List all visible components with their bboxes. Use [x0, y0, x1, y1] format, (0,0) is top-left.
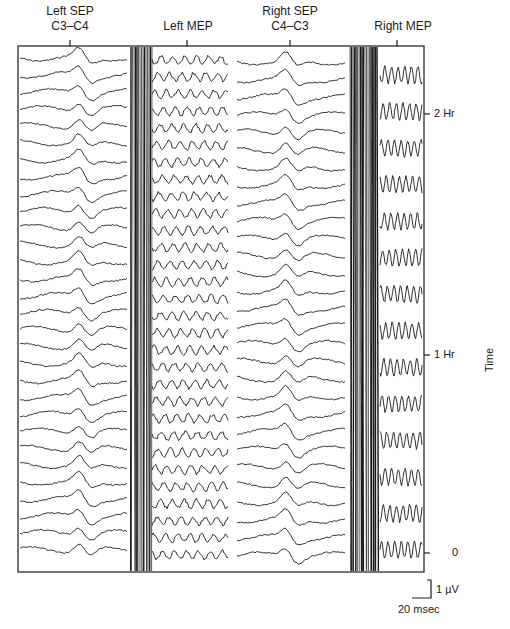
trace-left_mep	[152, 431, 228, 441]
trace-left_mep	[152, 277, 228, 288]
tick-label-1hr: 1 Hr	[434, 348, 455, 360]
trace-left_mep	[152, 294, 228, 304]
trace-left_sep	[20, 66, 127, 84]
trace-left_sep	[20, 388, 127, 405]
trace-left_sep	[20, 85, 127, 101]
trace-right_sep	[237, 158, 345, 171]
trace-right_sep	[237, 462, 345, 473]
artifact-line	[139, 47, 140, 571]
trace-left_mep	[152, 55, 228, 64]
trace-right_sep	[237, 250, 345, 261]
trace-left_mep	[152, 465, 228, 476]
trace-left_mep	[152, 243, 228, 253]
trace-left_mep	[152, 447, 228, 457]
trace-left_mep	[152, 72, 228, 82]
trace-right_sep	[237, 280, 345, 295]
trace-left_sep	[20, 490, 127, 507]
trace-right_mep	[380, 285, 422, 303]
trace-right_sep	[237, 339, 345, 352]
time-axis-label: Time	[483, 348, 495, 372]
artifact-line	[136, 47, 137, 571]
scale-time-label: 20 msec	[398, 603, 440, 615]
trace-right_sep	[237, 528, 345, 544]
trace-right_sep	[237, 492, 345, 506]
trace-left_sep	[20, 442, 127, 452]
trace-right_mep	[380, 102, 422, 121]
trace-right_sep	[237, 69, 345, 85]
trace-left_mep	[152, 158, 228, 168]
trace-left_mep	[152, 328, 228, 338]
trace-right_mep	[380, 213, 422, 231]
trace-right_mep	[380, 468, 422, 486]
trace-left_sep	[20, 324, 127, 336]
trace-right_sep	[237, 318, 345, 335]
trace-right_mep	[380, 66, 422, 85]
trace-right_mep	[380, 431, 422, 449]
trace-right_mep	[380, 248, 422, 266]
trace-left_mep	[152, 533, 228, 543]
trace-right_sep	[237, 233, 345, 246]
scale-bar	[412, 580, 431, 598]
trace-left_sep	[20, 222, 127, 233]
artifact-line	[365, 47, 366, 571]
trace-left_sep	[20, 47, 127, 63]
trace-right_sep	[237, 143, 345, 155]
trace-right_sep	[237, 214, 345, 230]
trace-left_mep	[152, 363, 228, 373]
trace-left_sep	[20, 528, 127, 540]
traces-group	[20, 47, 422, 571]
artifact-line	[377, 47, 378, 571]
trace-right_sep	[237, 404, 345, 420]
trace-right_sep	[237, 175, 345, 190]
trace-left_mep	[152, 345, 228, 356]
trace-left_sep	[20, 288, 127, 304]
trace-left_sep	[20, 471, 127, 487]
trace-left_sep	[20, 168, 127, 184]
trace-left_mep	[152, 123, 228, 133]
scale-amplitude-label: 1 µV	[436, 583, 459, 595]
trace-left_sep	[20, 251, 127, 266]
trace-right_mep	[380, 176, 422, 194]
trace-left_sep	[20, 509, 127, 525]
trace-right_sep	[237, 52, 345, 65]
trace-right_sep	[237, 356, 345, 367]
trace-left_sep	[20, 456, 127, 469]
trace-left_mep	[152, 192, 228, 203]
trace-left_mep	[152, 107, 228, 117]
trace-right_sep	[237, 264, 345, 277]
trace-left_mep	[152, 481, 228, 491]
trace-left_mep	[152, 208, 228, 218]
trace-left_mep	[152, 260, 228, 270]
trace-right_sep	[237, 109, 345, 123]
trace-right_sep	[237, 89, 345, 105]
tick-label-0: 0	[452, 546, 458, 558]
trace-left_sep	[20, 269, 127, 286]
trace-right_sep	[237, 509, 345, 525]
trace-left_sep	[20, 409, 127, 423]
trace-left_sep	[20, 134, 127, 147]
trace-right_mep	[380, 322, 422, 340]
trace-left_sep	[20, 149, 127, 164]
trace-left_mep	[152, 311, 228, 321]
trace-right_sep	[237, 549, 345, 564]
trace-left_mep	[152, 550, 228, 560]
artifact-line	[140, 47, 141, 571]
trace-left_sep	[20, 205, 127, 218]
trace-right_mep	[380, 541, 422, 558]
trace-left_mep	[152, 174, 228, 184]
trace-right_sep	[237, 371, 345, 383]
artifact-line	[368, 47, 369, 571]
trace-right_sep	[237, 477, 345, 488]
trace-left_mep	[152, 413, 228, 423]
evoked-potential-plot	[0, 0, 510, 629]
trace-right_sep	[237, 194, 345, 211]
trace-left_mep	[152, 517, 228, 526]
artifact-line	[148, 47, 149, 571]
trace-left_sep	[20, 544, 127, 555]
trace-left_sep	[20, 426, 127, 438]
trace-left_sep	[20, 353, 127, 368]
trace-right_mep	[380, 504, 422, 522]
trace-right_sep	[237, 444, 345, 459]
trace-right_sep	[237, 423, 345, 440]
trace-left_sep	[20, 188, 127, 203]
